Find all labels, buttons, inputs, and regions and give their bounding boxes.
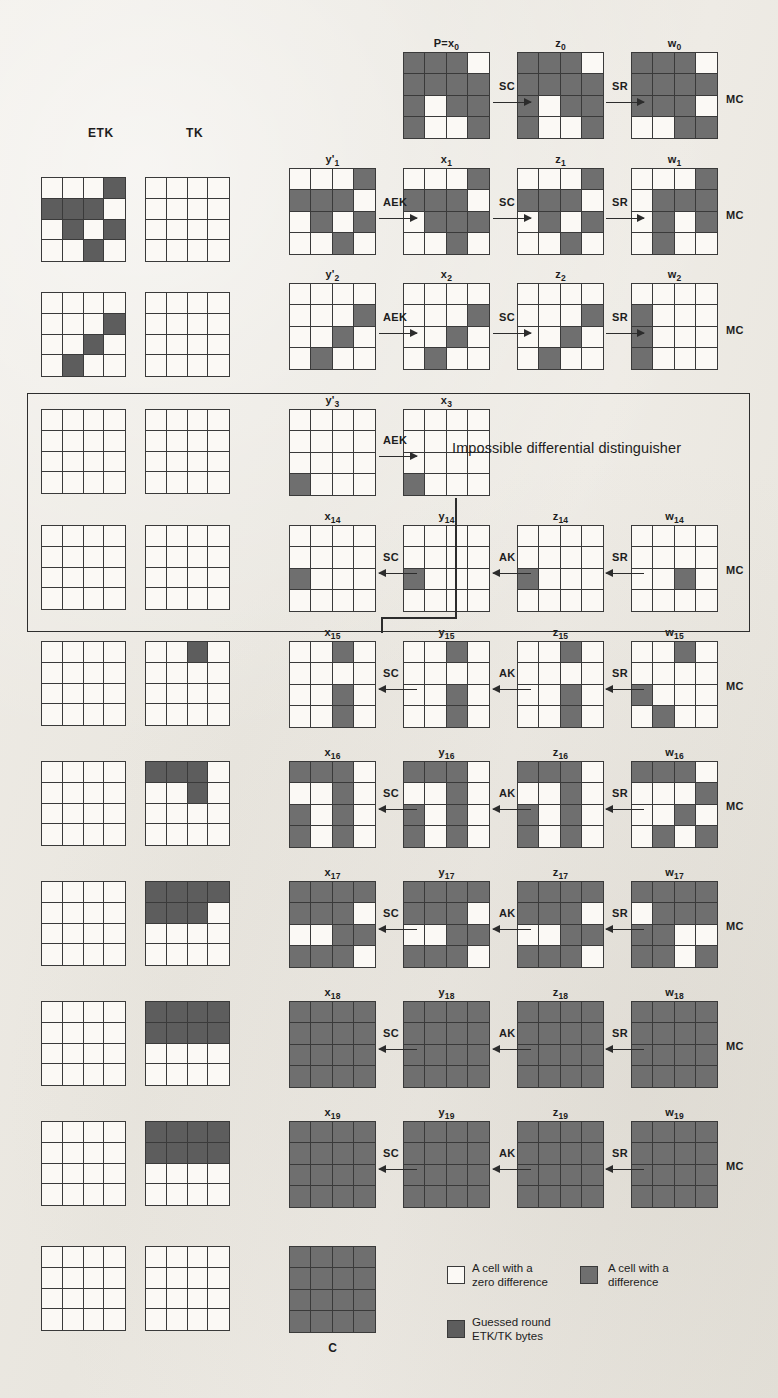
grid-cell [653,783,674,804]
grid-cell [539,190,560,211]
grid-cell [561,74,582,95]
grid-cell [582,1002,603,1023]
grid-cell [311,1045,332,1066]
grid-cell [354,903,375,924]
grid-cell [539,1045,560,1066]
grid-cell [104,293,125,314]
flow-arrow-left [606,805,644,814]
grid-cell [425,284,446,305]
grid-cell [84,762,105,783]
grid-cell [354,1002,375,1023]
grid-cell [333,946,354,967]
grid-cell [404,882,425,903]
grid-cell [167,178,188,199]
grid-cell [675,348,696,369]
state-grid-etk16 [41,761,126,846]
grid-cell [290,706,311,727]
grid-cell [188,824,209,845]
grid-cell [42,314,63,335]
grid-cell [333,685,354,706]
grid-cell [63,1268,84,1289]
grid-cell [104,220,125,241]
grid-label-y16: y16 [403,746,490,761]
grid-cell [696,53,717,74]
grid-cell [354,783,375,804]
grid-cell [104,684,125,705]
grid-cell [675,284,696,305]
grid-cell [63,335,84,356]
grid-cell [63,684,84,705]
grid-cell [42,1247,63,1268]
state-grid-w18 [631,1001,718,1088]
grid-cell [63,314,84,335]
grid-cell [632,1143,653,1164]
grid-cell [653,348,674,369]
grid-cell [208,882,229,903]
state-grid-tk18 [145,1001,230,1086]
grid-cell [354,284,375,305]
state-grid-x2 [403,283,490,370]
grid-cell [333,903,354,924]
operation-label-sr: SR [612,80,628,92]
grid-cell [632,642,653,663]
grid-cell [42,199,63,220]
grid-cell [42,804,63,825]
grid-cell [104,199,125,220]
grid-cell [84,1023,105,1044]
grid-cell [290,348,311,369]
grid-cell [539,783,560,804]
grid-label-z0: z0 [517,37,604,52]
grid-label-w17: w17 [631,866,718,881]
grid-cell [104,924,125,945]
grid-cell [104,178,125,199]
grid-label-x17: x17 [289,866,376,881]
operation-label-sc: SC [383,1147,399,1159]
grid-cell [675,327,696,348]
grid-label-z19: z19 [517,1106,604,1121]
grid-cell [63,1309,84,1330]
grid-cell [447,212,468,233]
grid-cell [333,1165,354,1186]
grid-cell [188,642,209,663]
grid-cell [518,903,539,924]
grid-cell [468,327,489,348]
grid-cell [42,924,63,945]
grid-cell [518,946,539,967]
grid-cell [561,642,582,663]
grid-cell [447,1143,468,1164]
grid-cell [561,327,582,348]
legend-text-guessed-key: Guessed round ETK/TK bytes [472,1316,551,1343]
grid-cell [63,1122,84,1143]
grid-cell [539,169,560,190]
grid-cell [653,1165,674,1186]
grid-cell [404,117,425,138]
grid-cell [447,663,468,684]
grid-cell [63,642,84,663]
grid-cell [468,762,489,783]
grid-cell [290,925,311,946]
grid-cell [290,1066,311,1087]
grid-label-z18: z18 [517,986,604,1001]
operation-label-mc: MC [726,800,744,812]
grid-cell [425,74,446,95]
grid-label-w19: w19 [631,1106,718,1121]
grid-cell [42,882,63,903]
grid-cell [468,642,489,663]
flow-arrow-left [493,805,531,814]
grid-cell [188,924,209,945]
grid-cell [167,804,188,825]
grid-cell [290,642,311,663]
grid-cell [311,1143,332,1164]
grid-cell [518,305,539,326]
grid-cell [188,220,209,241]
grid-cell [539,1122,560,1143]
grid-cell [696,212,717,233]
grid-cell [696,706,717,727]
grid-cell [582,305,603,326]
grid-cell [311,1002,332,1023]
grid-cell [188,1164,209,1185]
grid-cell [167,220,188,241]
state-grid-etk15 [41,641,126,726]
grid-cell [675,190,696,211]
grid-cell [653,1045,674,1066]
